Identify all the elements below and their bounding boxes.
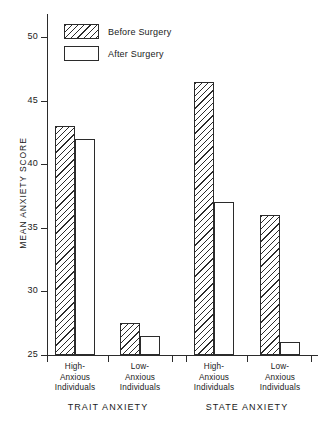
y-axis-title: MEAN ANXIETY SCORE <box>18 123 28 263</box>
y-axis-tick-label: 25 <box>27 349 38 359</box>
legend-label-before-surgery: Before Surgery <box>108 27 171 37</box>
x-axis-tick-mark <box>108 355 109 362</box>
x-axis-tick-mark <box>172 355 173 362</box>
category-label: Low-AnxiousIndividuals <box>235 362 325 394</box>
bar <box>140 336 160 355</box>
bar <box>75 139 95 355</box>
x-axis-tick-mark <box>247 355 248 362</box>
y-axis-tick-mark <box>41 291 48 292</box>
category-label-line: Low- <box>235 362 325 373</box>
y-axis-tick-label: 45 <box>27 95 38 105</box>
category-label-line: Individuals <box>235 383 325 394</box>
bar <box>120 323 140 355</box>
legend-label-after-surgery: After Surgery <box>108 49 164 59</box>
bar <box>194 82 214 355</box>
category-label-line: Anxious <box>235 373 325 384</box>
legend: Before Surgery After Surgery <box>64 22 171 66</box>
bar <box>280 342 300 355</box>
x-axis-line <box>47 355 318 356</box>
y-axis-line <box>47 14 48 355</box>
bar <box>260 215 280 355</box>
legend-item-after-surgery: After Surgery <box>64 44 171 63</box>
bar <box>214 202 234 355</box>
bar <box>55 126 75 355</box>
x-axis-tick-mark <box>186 355 187 362</box>
y-axis-tick-label: 40 <box>27 158 38 168</box>
anxiety-score-bar-chart: MEAN ANXIETY SCORE 253035404550 High-Anx… <box>0 0 326 424</box>
y-axis-tick-mark <box>41 164 48 165</box>
section-label: TRAIT ANXIETY <box>38 402 178 412</box>
y-axis-tick-label: 30 <box>27 285 38 295</box>
legend-item-before-surgery: Before Surgery <box>64 22 171 41</box>
legend-swatch-white-icon <box>64 46 99 61</box>
y-axis-tick-mark <box>41 101 48 102</box>
y-axis-tick-label: 35 <box>27 222 38 232</box>
y-axis-tick-label: 50 <box>27 31 38 41</box>
y-axis-tick-mark <box>41 37 48 38</box>
x-axis-tick-mark <box>311 355 312 362</box>
x-axis-tick-mark <box>47 355 48 362</box>
legend-swatch-hatched-icon <box>64 24 99 39</box>
y-axis-tick-mark <box>41 228 48 229</box>
section-label: STATE ANXIETY <box>177 402 317 412</box>
